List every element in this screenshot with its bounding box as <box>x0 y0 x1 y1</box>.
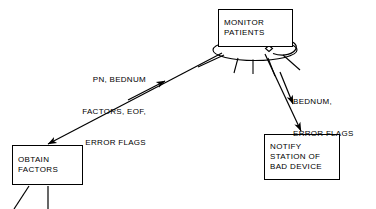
diagram-canvas: MONITOR PATIENTS OBTAIN FACTORS NOTIFY S… <box>0 0 376 209</box>
left-label-line-3: ERROR FLAGS <box>52 138 146 149</box>
left-label-line-2: FACTORS, EOF, <box>52 107 146 118</box>
monitor-to-obtain-label: PN, BEDNUM FACTORS, EOF, ERROR FLAGS <box>52 54 146 170</box>
monitor-patients-line-1: MONITOR <box>219 18 292 28</box>
obtain-factors-leg-lines <box>14 186 48 209</box>
monitor-patients-box[interactable]: MONITOR PATIENTS <box>218 9 293 47</box>
monitor-to-notify-label: BEDNUM, ERROR FLAGS <box>293 76 373 160</box>
notify-station-line-3: BAD DEVICE <box>265 162 339 172</box>
right-label-line-2: ERROR FLAGS <box>293 129 373 140</box>
right-label-line-1: BEDNUM, <box>293 97 373 108</box>
monitor-patients-line-2: PATIENTS <box>219 28 292 38</box>
left-label-line-1: PN, BEDNUM <box>52 75 146 86</box>
